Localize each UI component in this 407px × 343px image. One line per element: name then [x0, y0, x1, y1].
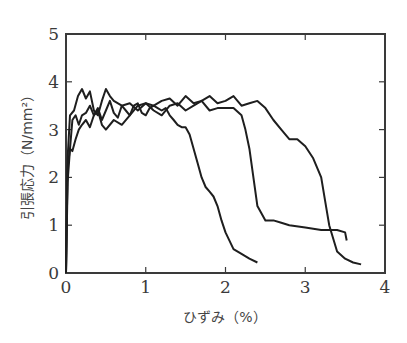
y-tick-label: 1	[48, 215, 59, 235]
x-axis-ticks: 01234	[61, 34, 391, 297]
x-tick-label: 1	[140, 277, 151, 297]
y-axis-label: 引張応力（N/mm²）	[19, 88, 35, 220]
x-axis-label: ひずみ（%）	[183, 309, 266, 325]
x-tick-label: 4	[380, 277, 391, 297]
data-series	[66, 89, 361, 273]
series-line-specimen-3	[66, 89, 361, 273]
y-tick-label: 5	[48, 24, 59, 44]
stress-strain-chart: 01234 012345 ひずみ（%） 引張応力（N/mm²）	[0, 0, 407, 343]
x-tick-label: 0	[61, 277, 72, 297]
y-tick-label: 2	[48, 167, 59, 187]
series-line-specimen-1	[66, 101, 257, 273]
y-tick-label: 3	[48, 120, 59, 140]
y-tick-label: 0	[48, 263, 59, 283]
y-tick-label: 4	[48, 72, 59, 92]
x-tick-label: 3	[300, 277, 311, 297]
x-tick-label: 2	[220, 277, 231, 297]
plot-frame	[66, 34, 385, 273]
